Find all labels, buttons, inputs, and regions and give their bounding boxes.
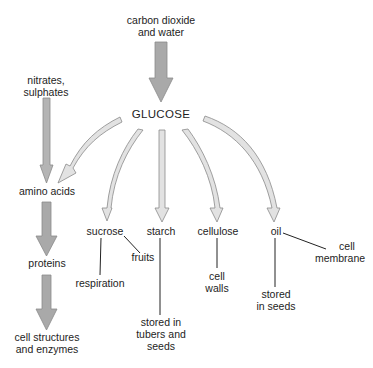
label-cellulose: cellulose — [192, 225, 244, 237]
label-starch: starch — [140, 225, 182, 237]
arrow-glucose-to-starch — [155, 130, 169, 222]
label-cell-membrane: cell membrane — [312, 240, 368, 264]
label-respiration: respiration — [70, 277, 130, 289]
diagram-arrows — [0, 0, 373, 368]
label-amino-acids: amino acids — [12, 185, 82, 197]
label-fruits: fruits — [128, 251, 158, 263]
arrow-glucose-to-cellulose — [182, 129, 223, 222]
line-sucrose-to-respiration — [100, 238, 101, 275]
label-stored-in-seeds: stored in seeds — [254, 288, 298, 312]
label-nitrates-sulphates: nitrates, sulphates — [16, 74, 76, 98]
label-carbon-dioxide-and-water: carbon dioxide and water — [126, 14, 196, 38]
label-sucrose: sucrose — [82, 225, 128, 237]
arrow-glucose-to-sucrose — [102, 129, 143, 221]
arrow-co2-to-glucose — [149, 42, 173, 102]
arrow-nitrates-to-amino-acids — [40, 98, 53, 183]
label-proteins: proteins — [12, 257, 82, 269]
label-stored-in-tubers-and-seeds: stored in tubers and seeds — [134, 316, 188, 352]
arrow-proteins-to-cell-structures — [36, 275, 57, 330]
arrow-amino-acids-to-proteins — [36, 202, 57, 256]
label-cell-structures-and-enzymes: cell structures and enzymes — [5, 331, 89, 355]
label-oil: oil — [266, 225, 286, 237]
label-glucose: GLUCOSE — [128, 108, 194, 120]
label-cell-walls: cell walls — [200, 270, 234, 294]
arrow-glucose-to-amino-acids — [58, 117, 122, 183]
